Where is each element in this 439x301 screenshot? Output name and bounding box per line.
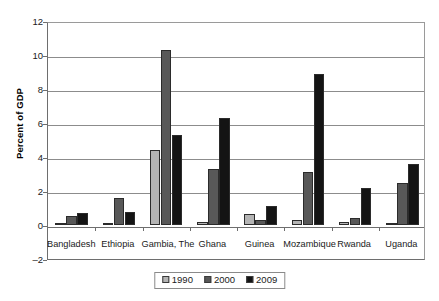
x-axis-tick-mark	[237, 227, 238, 231]
legend-swatch-icon	[246, 276, 253, 283]
bar-ethiopia-2000[interactable]	[114, 198, 125, 225]
bar-bangladesh-1990[interactable]	[55, 223, 66, 225]
chart-legend: 199020002009	[154, 272, 285, 289]
legend-item-2009[interactable]: 2009	[246, 275, 277, 285]
x-axis-tick-mark	[332, 227, 333, 231]
bar-chart: Percent of GDP 121086420–2 BangladeshEth…	[0, 0, 439, 301]
bar-mozambique-2000[interactable]	[303, 172, 314, 225]
bar-ghana-2009[interactable]	[219, 118, 230, 225]
x-axis-category-labels: BangladeshEthiopiaGambia, TheGhanaGuinea…	[47, 240, 425, 258]
bar-ghana-1990[interactable]	[197, 222, 208, 225]
bar-group	[190, 23, 237, 259]
bar-ethiopia-1990[interactable]	[103, 223, 114, 225]
x-axis-category-label: Mozambique	[283, 240, 330, 249]
bar-uganda-2000[interactable]	[397, 183, 408, 226]
bar-gambia-the-2000[interactable]	[161, 50, 172, 225]
bar-guinea-2000[interactable]	[255, 220, 266, 225]
bar-group	[48, 23, 95, 259]
bar-rwanda-2009[interactable]	[361, 188, 372, 225]
plot-area	[47, 22, 425, 260]
legend-label: 2009	[256, 275, 277, 285]
y-axis-tick-label: 0	[9, 221, 43, 231]
bar-mozambique-2009[interactable]	[314, 74, 325, 225]
y-axis-tick-label: 4	[9, 153, 43, 163]
y-axis-tick-label: 6	[9, 119, 43, 129]
x-axis-tick-mark	[190, 227, 191, 231]
x-axis-category-label: Ethiopia	[94, 240, 141, 249]
bar-uganda-2009[interactable]	[408, 164, 419, 225]
y-axis-tick-label: 12	[9, 17, 43, 27]
x-axis-category-label: Guinea	[236, 240, 283, 249]
legend-item-2000[interactable]: 2000	[204, 275, 235, 285]
x-axis-tick-mark	[143, 227, 144, 231]
legend-label: 1990	[172, 275, 193, 285]
bar-bangladesh-2009[interactable]	[77, 213, 88, 225]
legend-swatch-icon	[162, 276, 169, 283]
bar-group	[284, 23, 331, 259]
bar-group	[95, 23, 142, 259]
y-axis-tick-mark	[43, 260, 47, 261]
y-axis-tick-label: 10	[9, 51, 43, 61]
bar-ghana-2000[interactable]	[208, 169, 219, 225]
bar-rwanda-1990[interactable]	[339, 222, 350, 225]
x-axis-category-label: Ghana	[189, 240, 236, 249]
bar-rwanda-2000[interactable]	[350, 218, 361, 225]
legend-label: 2000	[214, 275, 235, 285]
bar-gambia-the-2009[interactable]	[172, 135, 183, 225]
x-axis-category-label: Gambia, The	[142, 240, 189, 249]
y-axis-tick-labels: 121086420–2	[5, 22, 43, 260]
y-axis-tick-label: –2	[9, 255, 43, 265]
legend-item-1990[interactable]: 1990	[162, 275, 193, 285]
bar-bangladesh-2000[interactable]	[66, 216, 77, 225]
bar-ethiopia-2009[interactable]	[125, 212, 136, 225]
bar-guinea-1990[interactable]	[244, 214, 255, 225]
x-axis-category-label: Uganda	[378, 240, 425, 249]
y-axis-tick-label: 8	[9, 85, 43, 95]
bar-guinea-2009[interactable]	[266, 206, 277, 225]
bar-groups	[48, 23, 424, 259]
x-axis-tick-mark	[379, 227, 380, 231]
x-axis-tick-mark	[284, 227, 285, 231]
legend-swatch-icon	[204, 276, 211, 283]
x-axis-tick-mark	[95, 227, 96, 231]
bar-group	[237, 23, 284, 259]
x-axis-category-label: Rwanda	[331, 240, 378, 249]
bar-group	[143, 23, 190, 259]
bar-group	[332, 23, 379, 259]
bar-gambia-the-1990[interactable]	[150, 150, 161, 225]
y-axis-tick-label: 2	[9, 187, 43, 197]
x-axis-category-label: Bangladesh	[47, 240, 94, 249]
bar-uganda-1990[interactable]	[386, 223, 397, 225]
bar-group	[379, 23, 425, 259]
bar-mozambique-1990[interactable]	[292, 220, 303, 225]
